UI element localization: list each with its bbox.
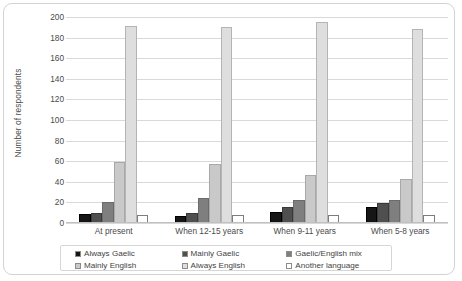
legend-swatch-icon [182, 263, 188, 269]
bar [412, 29, 424, 223]
legend-swatch-icon [75, 263, 81, 269]
bar [377, 203, 389, 223]
y-axis-title: Number of respondents [13, 13, 23, 213]
legend-row: Always GaelicMainly GaelicGaelic/English… [61, 248, 391, 260]
y-axis-tick-label: 20 [26, 198, 64, 206]
bar [198, 198, 210, 223]
x-axis-category-label: When 12-15 years [162, 226, 258, 236]
legend-swatch-icon [182, 251, 188, 257]
bar [316, 22, 328, 223]
y-axis-tick-label: 100 [26, 116, 64, 124]
bar-group [66, 17, 162, 223]
legend-swatch-icon [75, 251, 81, 257]
y-axis-tick-label: 60 [26, 157, 64, 165]
y-axis-tick-label: 40 [26, 178, 64, 186]
legend-item[interactable]: Another language [286, 262, 391, 270]
y-axis-tick-label: 80 [26, 137, 64, 145]
x-axis-category-labels: At presentWhen 12-15 yearsWhen 9-11 year… [66, 226, 448, 240]
bar-group [162, 17, 258, 223]
legend-item-label: Mainly Gaelic [191, 250, 240, 258]
y-axis-tick-label: 160 [26, 54, 64, 62]
legend-item-label: Another language [295, 262, 359, 270]
bar [282, 207, 294, 223]
bar [389, 200, 401, 223]
legend-item-label: Gaelic/English mix [295, 250, 362, 258]
bar [400, 179, 412, 223]
legend-item[interactable]: Gaelic/English mix [286, 250, 391, 258]
y-axis-tick-label: 180 [26, 34, 64, 42]
bar [305, 175, 317, 223]
legend-swatch-icon [286, 251, 292, 257]
bar [293, 200, 305, 223]
bar-series-container [66, 17, 448, 223]
bar [125, 26, 137, 223]
y-axis-tick-label: 200 [26, 13, 64, 21]
legend-item[interactable]: Mainly Gaelic [182, 250, 287, 258]
bar [221, 27, 233, 223]
y-axis-tick-labels: 200180160140120100806040200 [24, 17, 64, 223]
bar [209, 164, 221, 223]
y-axis-tick-label: 140 [26, 75, 64, 83]
x-axis-line [66, 222, 448, 223]
legend-item-label: Mainly English [84, 262, 136, 270]
legend-item-label: Always English [191, 262, 245, 270]
legend-row: Mainly EnglishAlways EnglishAnother lang… [61, 260, 391, 272]
bar [114, 162, 126, 223]
chart-legend: Always GaelicMainly GaelicGaelic/English… [60, 245, 392, 271]
legend-item[interactable]: Always English [182, 262, 287, 270]
legend-item[interactable]: Always Gaelic [61, 250, 182, 258]
x-axis-category-label: When 9-11 years [257, 226, 353, 236]
legend-item[interactable]: Mainly English [61, 262, 182, 270]
gridline [66, 223, 448, 224]
x-axis-category-label: When 5-8 years [353, 226, 449, 236]
plot-area [66, 17, 448, 223]
x-axis-category-label: At present [66, 226, 162, 236]
bar-group [353, 17, 449, 223]
y-axis-tick-label: 0 [26, 219, 64, 227]
bar [102, 202, 114, 223]
bar-group [257, 17, 353, 223]
legend-item-label: Always Gaelic [84, 250, 135, 258]
legend-swatch-icon [286, 263, 292, 269]
chart-frame: Number of respondents 200180160140120100… [3, 3, 455, 275]
bar [366, 207, 378, 223]
y-axis-tick-label: 120 [26, 95, 64, 103]
